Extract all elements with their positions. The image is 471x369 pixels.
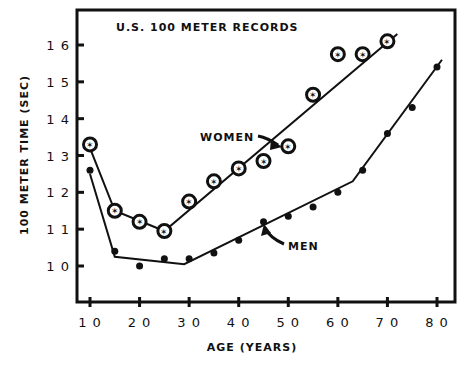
- men-data-point: [87, 167, 94, 174]
- y-tick-label: 1 2: [46, 185, 70, 200]
- men-data-point: [210, 250, 217, 257]
- star-icon: ✶: [86, 140, 94, 150]
- men-data-point: [359, 167, 366, 174]
- star-icon: ✶: [136, 217, 144, 227]
- men-data-point: [310, 204, 317, 211]
- star-icon: ✶: [334, 50, 342, 60]
- men-data-point: [136, 263, 143, 270]
- x-axis-label: AGE (YEARS): [207, 341, 297, 354]
- men-data-point: [409, 104, 416, 111]
- chart-title: U.S. 100 METER RECORDS: [116, 21, 299, 34]
- star-icon: ✶: [359, 50, 367, 60]
- men-data-point: [434, 64, 441, 71]
- x-tick-label: 2 0: [128, 315, 152, 330]
- x-tick-label: 6 0: [326, 315, 350, 330]
- women-arrowhead-icon: [270, 139, 282, 150]
- star-icon: ✶: [210, 177, 218, 187]
- star-icon: ✶: [260, 157, 268, 167]
- y-axis-label: 100 METER TIME (SEC): [18, 75, 31, 235]
- x-tick-label: 4 0: [227, 315, 251, 330]
- men-data-point: [334, 189, 341, 196]
- line-chart: 1 01 11 21 31 41 51 6 1 02 03 04 05 06 0…: [0, 0, 471, 369]
- star-icon: ✶: [185, 197, 193, 207]
- y-tick-label: 1 5: [46, 75, 70, 90]
- x-tick-label: 3 0: [177, 315, 201, 330]
- x-tick-label: 8 0: [425, 315, 449, 330]
- women-annotation: WOMEN: [200, 131, 254, 144]
- men-data-point: [161, 255, 168, 262]
- men-data-point: [285, 213, 292, 220]
- star-icon: ✶: [309, 90, 317, 100]
- star-icon: ✶: [284, 142, 292, 152]
- y-tick-label: 1 6: [46, 38, 70, 53]
- y-tick-label: 1 1: [46, 222, 70, 237]
- men-data-point: [186, 255, 193, 262]
- star-icon: ✶: [160, 227, 168, 237]
- x-tick-label: 5 0: [276, 315, 300, 330]
- men-data-point: [384, 130, 391, 137]
- men-data-point: [111, 248, 118, 255]
- star-icon: ✶: [383, 37, 391, 47]
- men-data-point: [260, 218, 267, 225]
- star-icon: ✶: [111, 206, 119, 216]
- y-tick-label: 1 4: [46, 112, 70, 127]
- star-icon: ✶: [235, 164, 243, 174]
- men-data-point: [235, 237, 242, 244]
- y-tick-label: 1 3: [46, 149, 70, 164]
- men-annotation: MEN: [288, 240, 319, 253]
- x-tick-label: 1 0: [78, 315, 102, 330]
- y-tick-label: 1 0: [46, 259, 70, 274]
- x-tick-label: 7 0: [376, 315, 400, 330]
